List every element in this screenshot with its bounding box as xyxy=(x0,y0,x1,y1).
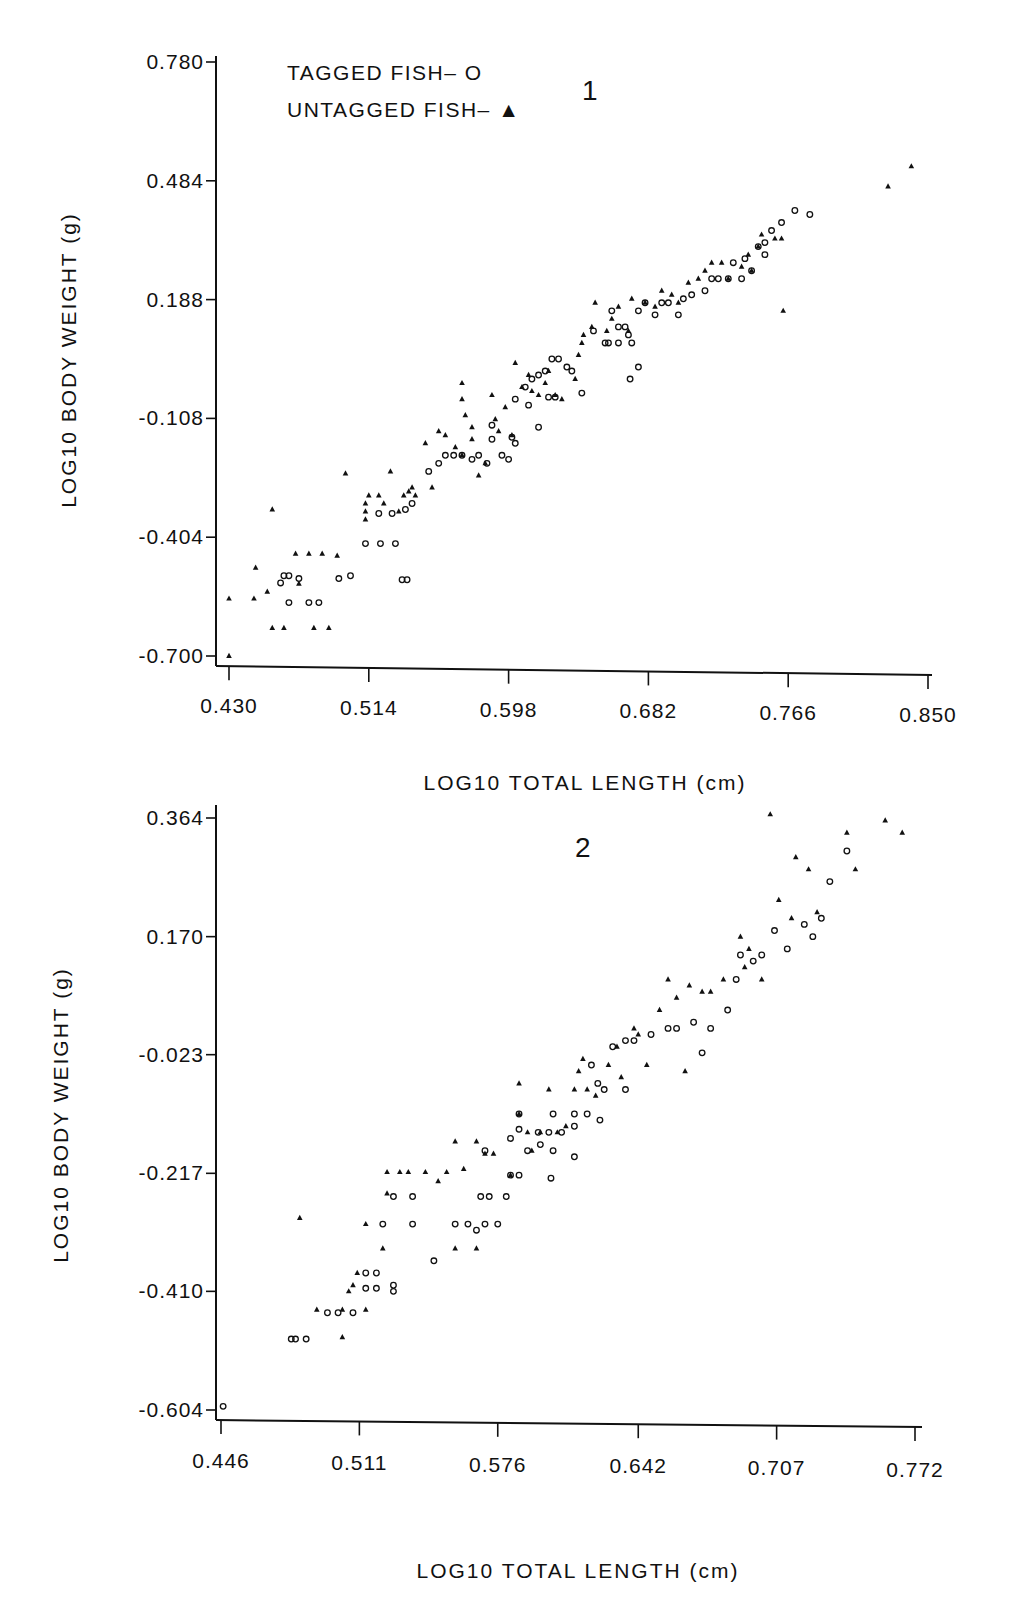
tagged-fish-point xyxy=(529,376,535,382)
untagged-fish-point xyxy=(536,392,542,397)
x-axis-2 xyxy=(216,1420,922,1427)
untagged-fish-point xyxy=(759,976,765,981)
untagged-fish-point xyxy=(563,1123,569,1128)
tagged-fish-point xyxy=(742,256,748,262)
untagged-fish-point xyxy=(593,1092,599,1097)
untagged-fish-point xyxy=(572,376,578,381)
tagged-fish-point xyxy=(762,240,768,246)
tagged-fish-point xyxy=(725,1007,731,1013)
untagged-fish-point xyxy=(572,1086,578,1091)
untagged-fish-point xyxy=(469,436,475,441)
tagged-fish-point xyxy=(546,394,552,400)
tagged-fish-point xyxy=(278,580,284,586)
untagged-fish-point xyxy=(609,316,615,321)
data-points-2 xyxy=(220,811,905,1409)
tagged-fish-point xyxy=(769,228,775,234)
untagged-fish-point xyxy=(476,472,482,477)
untagged-fish-point xyxy=(366,492,372,497)
untagged-fish-point xyxy=(340,1334,346,1339)
untagged-fish-point xyxy=(363,516,369,521)
untagged-fish-point xyxy=(882,817,888,822)
untagged-fish-point xyxy=(401,492,407,497)
tagged-fish-point xyxy=(410,1221,416,1227)
panel-label-1: 1 xyxy=(582,75,598,106)
tagged-fish-point xyxy=(623,1087,629,1093)
tagged-fish-point xyxy=(626,332,632,338)
tagged-fish-point xyxy=(538,1142,544,1148)
y-axis-title-1: LOG10 BODY WEIGHT (g) xyxy=(57,212,80,508)
tagged-fish-point xyxy=(350,1310,356,1316)
tagged-fish-point xyxy=(827,879,833,885)
untagged-fish-point xyxy=(413,492,419,497)
y-tick-label: -0.108 xyxy=(138,406,204,429)
tagged-fish-point xyxy=(699,1050,705,1056)
tagged-fish-point xyxy=(489,436,495,442)
untagged-fish-point xyxy=(314,1307,320,1312)
tagged-fish-point xyxy=(676,312,682,318)
tagged-fish-point xyxy=(336,576,342,582)
y-tick-label: -0.023 xyxy=(138,1043,204,1066)
untagged-fish-point xyxy=(409,484,415,489)
untagged-fish-point xyxy=(496,428,502,433)
untagged-fish-point xyxy=(340,1307,346,1312)
x-tick-label: 0.511 xyxy=(331,1451,387,1474)
untagged-fish-point xyxy=(388,468,394,473)
untagged-fish-point xyxy=(311,625,317,630)
untagged-fish-point xyxy=(396,508,402,513)
tagged-fish-point xyxy=(716,276,722,282)
untagged-fish-point xyxy=(380,1245,386,1250)
tagged-fish-point xyxy=(374,1270,380,1276)
x-tick-label: 0.446 xyxy=(192,1449,250,1472)
tagged-fish-point xyxy=(665,1026,671,1032)
tagged-fish-point xyxy=(689,292,695,298)
x-tick-label: 0.682 xyxy=(620,699,678,722)
tagged-fish-point xyxy=(363,1270,369,1276)
untagged-fish-point xyxy=(635,1031,641,1036)
tagged-fish-point xyxy=(426,469,432,475)
tagged-fish-point xyxy=(536,372,542,378)
tagged-fish-point xyxy=(512,440,518,446)
untagged-fish-point xyxy=(326,625,332,630)
y-tick-label: 0.780 xyxy=(146,50,204,73)
untagged-fish-point xyxy=(459,380,465,385)
tagged-fish-point xyxy=(597,1117,603,1123)
tagged-fish-point xyxy=(550,1111,556,1117)
untagged-fish-point xyxy=(669,292,675,297)
x-tick-label: 0.850 xyxy=(899,703,957,726)
x-tick-label: 0.598 xyxy=(480,698,538,721)
tagged-fish-point xyxy=(584,1111,590,1117)
untagged-fish-point xyxy=(885,183,891,188)
x-tick-label: 0.772 xyxy=(886,1458,944,1481)
untagged-fish-point xyxy=(708,988,714,993)
untagged-fish-point xyxy=(226,595,232,600)
untagged-fish-point xyxy=(789,915,795,920)
scatter-chart-1: 0.7800.4840.188-0.108-0.404-0.700 0.4300… xyxy=(57,50,957,794)
tagged-fish-point xyxy=(286,600,292,606)
untagged-fish-point xyxy=(269,625,275,630)
untagged-fish-point xyxy=(489,392,495,397)
untagged-fish-point xyxy=(696,276,702,281)
tagged-fish-point xyxy=(759,952,765,958)
untagged-fish-point xyxy=(674,995,680,1000)
untagged-fish-point xyxy=(443,432,449,437)
untagged-fish-point xyxy=(452,1138,458,1143)
untagged-fish-point xyxy=(616,304,622,309)
untagged-fish-point xyxy=(492,416,498,421)
tagged-fish-point xyxy=(631,1038,637,1044)
tagged-fish-point xyxy=(572,1154,578,1160)
tagged-fish-point xyxy=(762,252,768,258)
untagged-fish-point xyxy=(631,1025,637,1030)
tagged-fish-point xyxy=(465,1221,471,1227)
x-tick-label: 0.514 xyxy=(340,696,398,719)
tagged-fish-point xyxy=(469,457,475,463)
untagged-fish-point xyxy=(767,811,773,816)
untagged-fish-point xyxy=(686,280,692,285)
tagged-fish-point xyxy=(391,1282,397,1288)
untagged-fish-point xyxy=(793,854,799,859)
untagged-fish-point xyxy=(474,1245,480,1250)
tagged-fish-point xyxy=(325,1310,331,1316)
tagged-fish-point xyxy=(648,1032,654,1038)
tagged-fish-point xyxy=(296,576,302,582)
tagged-fish-point xyxy=(549,356,555,362)
tagged-fish-point xyxy=(389,511,395,517)
